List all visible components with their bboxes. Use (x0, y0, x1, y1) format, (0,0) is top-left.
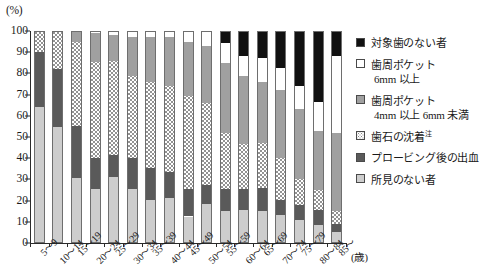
bar-40-44 (164, 31, 175, 243)
x-axis-tick-mark (290, 243, 291, 247)
legend-item-none: 所見のない者 (356, 173, 482, 188)
y-axis-unit-label: (%) (6, 4, 22, 16)
bar-segment-pocket4 (145, 37, 156, 82)
bar-segment-bleeding (127, 158, 138, 189)
legend-swatch-pocket6 (356, 59, 365, 68)
bar-segment-none (71, 178, 82, 243)
bar-segment-pocket6 (313, 102, 324, 131)
bar-35-39 (145, 31, 156, 243)
bar-segment-pocket4 (71, 31, 82, 42)
legend-item-calculus: 歯石の沈着注 (356, 130, 482, 145)
x-axis-tick-mark (86, 243, 87, 247)
bar-segment-bleeding (220, 189, 231, 211)
bar-segment-pocket6 (275, 68, 286, 90)
bar-segment-pocket6 (220, 43, 231, 63)
chart-legend: 対象歯のない者歯周ポケット6mm 以上歯周ポケット4mm 以上 6mm 未満歯石… (356, 36, 482, 194)
bar-segment-pocket6 (164, 31, 175, 37)
bar-segment-pocket6 (294, 86, 305, 109)
bar-segment-bleeding (34, 52, 45, 107)
bar-segment-calculus (257, 143, 268, 188)
bar-segment-pocket6 (201, 31, 212, 46)
bar-segment-pocket4 (183, 42, 194, 96)
bar-segment-bleeding (331, 224, 342, 232)
bar-segment-pocket4 (257, 82, 268, 143)
bar-85- (331, 31, 342, 243)
bar-segment-no-target-teeth (275, 31, 286, 68)
bar-segment-calculus (71, 42, 82, 127)
bar-15-19 (71, 31, 82, 243)
legend-label: プロービング後の出血 (371, 152, 479, 164)
bar-segment-pocket6 (238, 56, 249, 75)
bar-segment-pocket4 (238, 76, 249, 145)
bar-segment-pocket4 (331, 133, 342, 211)
plot-area (30, 31, 346, 243)
x-axis-tick-mark (346, 243, 347, 247)
bar-segment-calculus (201, 103, 212, 185)
bar-segment-bleeding (313, 210, 324, 225)
x-axis-tick-mark (67, 243, 68, 247)
legend-item-no-target-teeth: 対象歯のない者 (356, 36, 482, 51)
bar-segment-calculus (238, 144, 249, 189)
bar-segment-calculus (145, 82, 156, 168)
x-axis-tick-mark (30, 243, 31, 247)
bar-30-34 (127, 31, 138, 243)
stacked-bar-chart: (%) 0102030405060708090100 5～910～1415～19… (0, 0, 483, 274)
bar-10-14 (52, 31, 63, 243)
legend-item-pocket6: 歯周ポケット6mm 以上 (356, 58, 482, 87)
legend-label: 歯周ポケット (371, 95, 436, 107)
bar-segment-calculus (52, 31, 63, 69)
bar-80-84 (313, 31, 324, 243)
legend-note-marker: 注 (425, 130, 432, 138)
x-axis-tick-mark (272, 243, 273, 247)
x-axis-unit-label: (歳) (351, 249, 368, 264)
bar-segment-pocket6 (127, 31, 138, 37)
bar-segment-pocket4 (164, 37, 175, 86)
bar-segment-pocket4 (90, 33, 101, 62)
bar-45-49 (183, 31, 194, 243)
x-axis-tick-mark (160, 243, 161, 247)
bar-segment-pocket4 (294, 109, 305, 179)
bar-segment-none (34, 107, 45, 243)
x-axis-tick-mark (142, 243, 143, 247)
bar-segment-pocket4 (201, 46, 212, 103)
bar-segment-pocket4 (220, 63, 231, 133)
bar-segment-no-target-teeth (331, 31, 342, 56)
bar-25-29 (108, 31, 119, 243)
legend-item-bleeding: プロービング後の出血 (356, 151, 482, 166)
legend-swatch-no-target-teeth (356, 38, 365, 47)
x-axis-tick-mark (327, 243, 328, 247)
bar-segment-none (108, 177, 119, 243)
bar-segment-bleeding (238, 189, 249, 210)
y-axis-ticks: 0102030405060708090100 (0, 31, 28, 243)
legend-label: 所見のない者 (371, 174, 436, 186)
bar-segment-no-target-teeth (220, 31, 231, 43)
bar-segment-no-target-teeth (238, 31, 249, 56)
x-axis-tick-mark (253, 243, 254, 247)
bar-segment-pocket4 (108, 35, 119, 60)
bar-75-79 (294, 31, 305, 243)
bar-segment-calculus (34, 31, 45, 52)
bar-segment-bleeding (294, 205, 305, 220)
bar-segment-calculus (331, 211, 342, 224)
x-axis-tick-mark (179, 243, 180, 247)
bar-segment-pocket6 (257, 58, 268, 82)
bar-segment-bleeding (108, 155, 119, 177)
legend-swatch-pocket4 (356, 95, 365, 104)
legend-label: 歯石の沈着 (371, 131, 425, 143)
bar-segment-bleeding (201, 185, 212, 204)
bar-segment-calculus (275, 158, 286, 199)
legend-swatch-calculus (356, 131, 365, 140)
bar-segment-none (52, 127, 63, 243)
bar-segment-bleeding (275, 200, 286, 216)
bar-segment-bleeding (71, 126, 82, 178)
bar-60-64 (238, 31, 249, 243)
bar-segment-no-target-teeth (313, 31, 324, 102)
bar-segment-calculus (294, 179, 305, 204)
bar-55-59 (220, 31, 231, 243)
bar-segment-bleeding (257, 188, 268, 211)
x-axis-tick-mark (216, 243, 217, 247)
bar-5-9 (34, 31, 45, 243)
bar-segment-calculus (164, 86, 175, 172)
bar-segment-calculus (90, 62, 101, 158)
legend-swatch-bleeding (356, 153, 365, 162)
